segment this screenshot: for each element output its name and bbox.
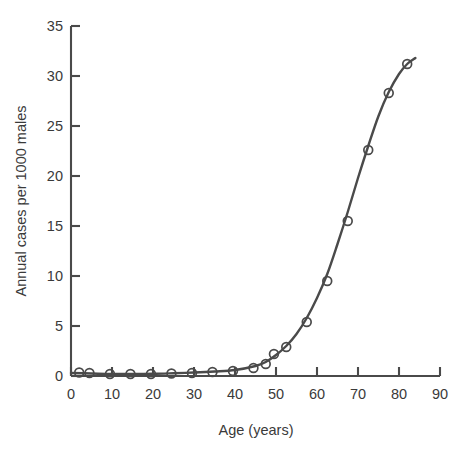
y-tick-label: 20: [47, 168, 63, 184]
y-tick-label: 15: [47, 218, 63, 234]
y-axis-ticks: 05101520253035: [47, 18, 80, 384]
x-axis-ticks: 0102030405060708090: [67, 367, 448, 402]
x-tick-label: 40: [227, 386, 243, 402]
y-tick-label: 35: [47, 18, 63, 34]
data-point-group: [75, 60, 412, 379]
x-tick-label: 80: [391, 386, 407, 402]
x-tick-label: 60: [309, 386, 325, 402]
fitted-curve: [71, 58, 415, 374]
axis-lines: [71, 26, 440, 376]
x-tick-label: 30: [186, 386, 202, 402]
x-tick-label: 20: [145, 386, 161, 402]
chart-canvas: 05101520253035 0102030405060708090 Age (…: [0, 0, 468, 461]
y-axis-title: Annual cases per 1000 males: [13, 105, 29, 296]
x-tick-label: 50: [268, 386, 284, 402]
x-tick-label: 90: [432, 386, 448, 402]
x-axis-title: Age (years): [219, 422, 294, 438]
x-tick-label: 10: [104, 386, 120, 402]
y-tick-label: 0: [55, 368, 63, 384]
y-tick-label: 5: [55, 318, 63, 334]
chart-figure: 05101520253035 0102030405060708090 Age (…: [0, 0, 468, 461]
y-tick-label: 25: [47, 118, 63, 134]
x-tick-label: 0: [67, 386, 75, 402]
x-tick-label: 70: [350, 386, 366, 402]
y-tick-label: 10: [47, 268, 63, 284]
y-tick-label: 30: [47, 68, 63, 84]
